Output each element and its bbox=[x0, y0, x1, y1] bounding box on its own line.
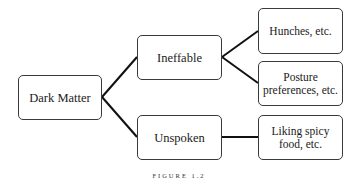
node-posture-preferences: Posture preferences, etc. bbox=[258, 61, 343, 106]
node-label: Dark Matter bbox=[29, 91, 90, 105]
node-label: Hunches, etc. bbox=[269, 25, 331, 38]
node-label-line-1: Liking spicy bbox=[272, 125, 330, 138]
edge-dark-matter-unspoken bbox=[102, 97, 137, 137]
node-label-line-1: Posture bbox=[283, 71, 318, 84]
node-hunches: Hunches, etc. bbox=[258, 8, 343, 54]
node-label-line-2: food, etc. bbox=[279, 138, 322, 151]
figure-caption: FIGURE 1.2 bbox=[0, 172, 358, 179]
edge-ineffable-posture bbox=[222, 57, 258, 83]
node-label: Ineffable bbox=[157, 51, 202, 65]
edge-ineffable-hunches bbox=[222, 31, 258, 57]
node-liking-spicy-food: Liking spicy food, etc. bbox=[258, 115, 343, 160]
node-ineffable: Ineffable bbox=[137, 35, 222, 80]
edge-dark-matter-ineffable bbox=[102, 57, 137, 97]
node-unspoken: Unspoken bbox=[137, 115, 222, 160]
node-dark-matter: Dark Matter bbox=[18, 75, 102, 120]
node-label: Unspoken bbox=[154, 131, 205, 145]
node-label-line-2: preferences, etc. bbox=[263, 84, 338, 97]
